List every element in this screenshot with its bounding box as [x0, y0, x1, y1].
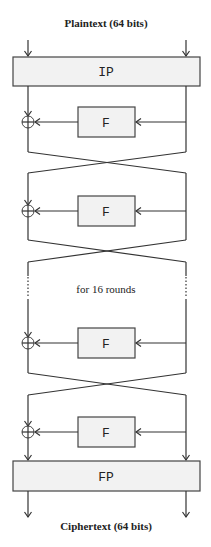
- f-label-3: F: [102, 337, 110, 352]
- ciphertext-label: Ciphertext (64 bits): [60, 520, 152, 533]
- round-15: F: [22, 328, 186, 395]
- round-1: F: [22, 86, 186, 173]
- fp-label: FP: [98, 470, 114, 485]
- ip-box: IP: [13, 57, 200, 86]
- ip-label: IP: [98, 65, 114, 80]
- repeat-note: for 16 rounds: [76, 283, 135, 295]
- round-2: F: [22, 173, 186, 262]
- plaintext-label: Plaintext (64 bits): [64, 17, 147, 30]
- f-label-2: F: [102, 205, 110, 220]
- f-label-1: F: [102, 116, 110, 131]
- feistel-diagram: Plaintext (64 bits) IP F F: [0, 0, 211, 547]
- fp-box: FP: [13, 461, 200, 491]
- f-label-4: F: [102, 426, 110, 441]
- round-16: F: [22, 395, 186, 460]
